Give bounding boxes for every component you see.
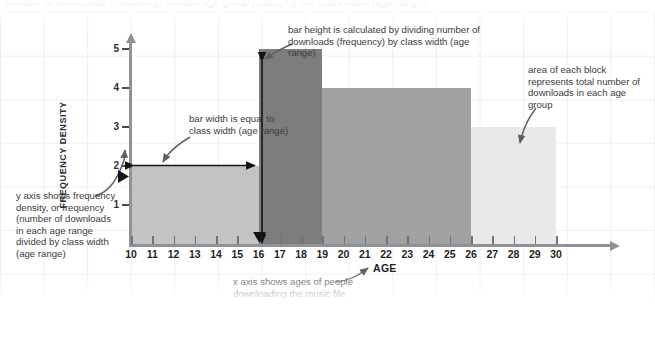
histogram-figure: number of downloads (frequency) in each … [0, 0, 655, 342]
page-vignette [0, 0, 655, 342]
